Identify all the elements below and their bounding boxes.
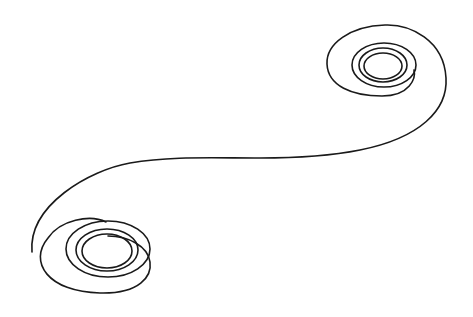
upper-ring-3 (364, 53, 402, 79)
euler-spiral-drawing (0, 0, 473, 317)
lower-ring-3 (82, 234, 132, 268)
lower-ring-2 (76, 229, 138, 271)
figure-canvas (0, 0, 473, 317)
spiral-main-curve (32, 25, 446, 293)
